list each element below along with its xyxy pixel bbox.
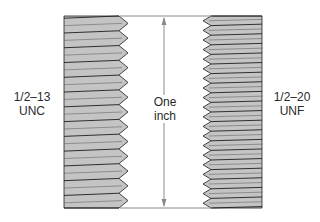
- dimension-text-line2: inch: [146, 109, 184, 123]
- unf-series-text: UNF: [264, 104, 320, 118]
- unc-thread-profile: [64, 16, 128, 208]
- unf-thread-profile: [203, 16, 262, 208]
- unc-size-text: 1/2–13: [4, 90, 60, 104]
- unf-size-text: 1/2–20: [264, 90, 320, 104]
- arrow-up-icon: [162, 17, 167, 25]
- unc-series-text: UNC: [4, 104, 60, 118]
- unf-thread-label: 1/2–20 UNF: [264, 90, 320, 118]
- one-inch-dimension-label: One inch: [146, 95, 184, 123]
- unc-thread-label: 1/2–13 UNC: [4, 90, 60, 118]
- dimension-text-line1: One: [146, 95, 184, 109]
- arrow-down-icon: [162, 199, 167, 207]
